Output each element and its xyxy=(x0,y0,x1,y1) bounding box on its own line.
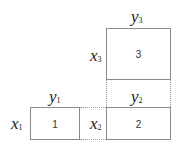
box-3: 3 xyxy=(106,28,171,80)
dotted-connector-bottom xyxy=(80,139,106,140)
label-x1: x1 xyxy=(11,115,23,132)
dotted-connector-left xyxy=(106,80,107,107)
label-y3: y3 xyxy=(131,8,143,25)
dotted-connector-top xyxy=(80,107,106,108)
box-2-number: 2 xyxy=(107,118,170,129)
label-x3: x3 xyxy=(90,47,102,64)
box-1-number: 1 xyxy=(31,118,79,129)
label-y1: y1 xyxy=(49,88,61,105)
box-1: 1 xyxy=(30,107,80,140)
label-y2: y2 xyxy=(131,88,143,105)
box-2: 2 xyxy=(106,107,171,140)
label-x2: x2 xyxy=(90,115,102,132)
box-3-number: 3 xyxy=(107,49,170,60)
dotted-connector-right xyxy=(170,80,171,107)
